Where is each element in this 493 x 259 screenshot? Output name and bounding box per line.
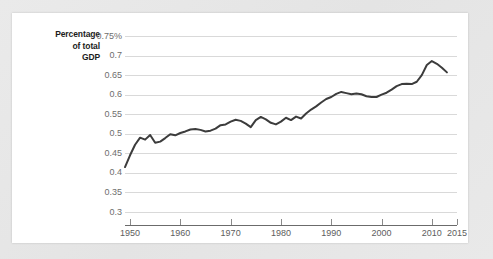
line-chart: Percentage of total GDP 0.30.350.40.450.… [12, 13, 468, 243]
y-tick-label-5: 0.55 [76, 110, 122, 119]
y-tick-label-6: 0.6 [76, 90, 122, 99]
y-tick-label-0: 0.3 [76, 208, 122, 217]
y-tick-label-8: 0.7 [76, 51, 122, 60]
x-tick-label-3: 1980 [271, 228, 291, 238]
y-tick-label-9: 0.75% [76, 32, 122, 41]
x-tick-label-6: 2010 [422, 228, 442, 238]
chart-card: Percentage of total GDP 0.30.350.40.450.… [12, 13, 468, 243]
x-tick-label-2: 1970 [221, 228, 241, 238]
x-tick-label-7: 2015 [447, 228, 467, 238]
x-tick-7 [457, 219, 458, 225]
y-axis-tick-labels: 0.30.350.40.450.50.550.60.650.70.75% [72, 36, 122, 212]
y-tick-label-1: 0.35 [76, 188, 122, 197]
x-tick-label-4: 1990 [321, 228, 341, 238]
y-tick-label-3: 0.45 [76, 149, 122, 158]
x-tick-0 [130, 219, 131, 225]
x-tick-1 [180, 219, 181, 225]
x-tick-5 [382, 219, 383, 225]
x-tick-label-0: 1950 [120, 228, 140, 238]
x-tick-label-5: 2000 [372, 228, 392, 238]
x-tick-6 [432, 219, 433, 225]
x-tick-2 [231, 219, 232, 225]
x-tick-label-1: 1960 [170, 228, 190, 238]
series-polyline [125, 61, 447, 167]
page-background: Percentage of total GDP 0.30.350.40.450.… [0, 0, 493, 259]
gridline-y-0 [125, 212, 457, 213]
y-tick-label-2: 0.4 [76, 168, 122, 177]
x-tick-3 [281, 219, 282, 225]
y-tick-label-4: 0.5 [76, 129, 122, 138]
x-axis-line [125, 225, 457, 226]
x-tick-4 [331, 219, 332, 225]
series-line-gdp [125, 36, 457, 212]
y-tick-label-7: 0.65 [76, 71, 122, 80]
